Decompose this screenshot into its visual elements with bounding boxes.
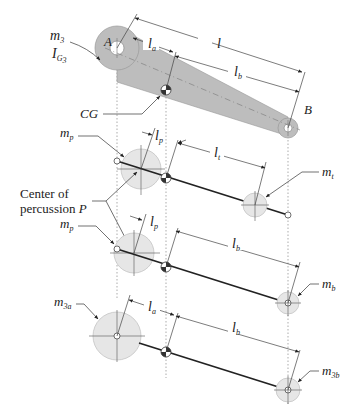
a-label: A bbox=[103, 34, 112, 49]
m3b-leader bbox=[298, 371, 319, 382]
center-percussion-label-1: Center of bbox=[20, 186, 69, 201]
mt-label: mt bbox=[322, 164, 334, 181]
mb-leader bbox=[298, 284, 319, 296]
diagram-canvas: l la lb m3 IG3 A B CG lp lt mp mt Center… bbox=[0, 0, 351, 413]
mb-label: mb bbox=[322, 276, 335, 293]
m3a-label: m3a bbox=[54, 294, 71, 311]
lp-label-2: lp bbox=[150, 214, 158, 231]
mp-label-1: mp bbox=[60, 125, 73, 142]
l-label: l bbox=[217, 36, 221, 51]
m3a-leader bbox=[76, 304, 98, 319]
ig3-label: IG3 bbox=[51, 46, 66, 65]
mp-label-2: mp bbox=[60, 216, 73, 233]
m3b-label: m3b bbox=[322, 363, 339, 380]
massless-rod-3 bbox=[117, 249, 288, 303]
mt-leader bbox=[266, 172, 319, 197]
m3-label: m3 bbox=[50, 28, 64, 45]
center-percussion-label-2: percussion P bbox=[20, 201, 87, 216]
connecting-rod bbox=[95, 26, 300, 138]
lp-label-1: lp bbox=[155, 128, 163, 145]
mp-leader-2 bbox=[78, 226, 114, 244]
l-label-bg bbox=[198, 34, 212, 46]
cg-label: CG bbox=[80, 106, 99, 121]
cg-leader bbox=[103, 96, 160, 114]
b-label: B bbox=[304, 102, 312, 117]
model-row-2 bbox=[114, 145, 291, 221]
